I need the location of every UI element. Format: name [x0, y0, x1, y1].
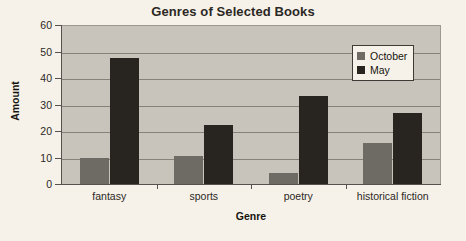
x-axis-title: Genre	[62, 210, 440, 222]
chart-title: Genres of Selected Books	[0, 4, 466, 19]
y-axis-tick-mark	[55, 25, 61, 26]
y-axis-tick-label: 60	[6, 20, 52, 30]
bar-poetry-may	[299, 96, 328, 185]
x-axis-tick-label: historical fiction	[346, 190, 441, 202]
y-axis-tick-mark	[55, 105, 61, 106]
x-axis-tick-label: fantasy	[62, 190, 157, 202]
y-axis-tick-label: 50	[6, 47, 52, 57]
chart-legend: OctoberMay	[352, 45, 414, 81]
x-axis-category-separator	[157, 185, 158, 189]
legend-swatch-icon	[357, 66, 365, 74]
legend-label: May	[370, 65, 390, 76]
x-axis-category-separator	[251, 185, 252, 189]
x-axis-tick-label: sports	[157, 190, 252, 202]
bar-sports-october	[174, 156, 203, 185]
y-axis-tick-mark	[55, 52, 61, 53]
legend-entry-may: May	[357, 63, 407, 77]
bar-historical-fiction-october	[363, 143, 392, 185]
y-axis-tick-mark	[55, 78, 61, 79]
legend-entry-october: October	[357, 49, 407, 63]
y-axis-tick-label: 10	[6, 153, 52, 163]
y-axis-tick-mark	[55, 158, 61, 159]
legend-swatch-icon	[357, 52, 365, 60]
y-axis-tick-label: 0	[6, 179, 52, 189]
y-axis-tick-mark	[55, 184, 61, 185]
y-axis-tick-label: 20	[6, 126, 52, 136]
bar-fantasy-october	[80, 158, 109, 185]
bar-sports-may	[204, 125, 233, 185]
bar-chart: Genres of Selected Books Amount 01020304…	[0, 0, 466, 241]
y-axis-tick-mark	[55, 131, 61, 132]
x-axis-category-separator	[346, 185, 347, 189]
x-axis-line	[62, 184, 441, 185]
legend-label: October	[370, 51, 407, 62]
y-axis-tick-label: 30	[6, 100, 52, 110]
y-axis-tick-labels: 0102030405060	[0, 0, 52, 241]
y-axis-tick-label: 40	[6, 73, 52, 83]
bar-fantasy-may	[110, 58, 139, 185]
bar-historical-fiction-may	[393, 113, 422, 185]
x-axis-tick-label: poetry	[251, 190, 346, 202]
